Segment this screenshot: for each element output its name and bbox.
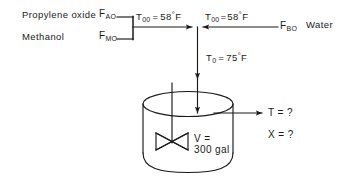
t00-left-subscript: 00 xyxy=(142,16,150,23)
feed-a-flow-symbol: FAO xyxy=(99,8,116,19)
temperature-label-t00-left: T00=58°F xyxy=(136,9,181,22)
reactor-volume-line2: 300 gal xyxy=(194,144,230,155)
feed-a-name-label: Propylene oxide xyxy=(22,9,96,20)
temperature-label-t00-right: T00=58°F xyxy=(205,9,248,22)
feed-m-flow-subscript: MO xyxy=(106,35,118,42)
feed-a-flow-subscript: AO xyxy=(106,13,117,20)
feed-m-flow-base: F xyxy=(99,30,106,41)
feed-m-flow-symbol: FMO xyxy=(99,30,117,41)
t0-mixed-unit: F xyxy=(241,52,247,63)
t00-right-equals: = xyxy=(220,11,226,22)
feed-m-name-label: Methanol xyxy=(22,31,64,42)
t0-mixed-subscript: 0 xyxy=(212,57,216,64)
t0-mixed-equals: = xyxy=(218,52,224,63)
reactor-volume-label: V = 300 gal xyxy=(194,133,230,155)
feed-b-name-label: Water xyxy=(306,19,333,30)
reactor-volume-line1: V = xyxy=(194,133,230,144)
feed-b-flow-base: F xyxy=(280,20,287,31)
feed-b-flow-subscript: BO xyxy=(287,25,298,32)
t00-left-degree: ° xyxy=(172,10,175,19)
t00-right-value: 58 xyxy=(227,11,238,22)
t0-mixed-value: 75 xyxy=(226,52,237,63)
t00-left-equals: = xyxy=(152,11,158,22)
feed-b-flow-symbol: FBO xyxy=(280,20,297,31)
process-flow-diagram: Propylene oxide Methanol FAO FMO FBO Wat… xyxy=(0,0,342,185)
t00-left-value: 58 xyxy=(160,11,171,22)
feed-a-flow-base: F xyxy=(99,8,106,19)
outlet-temperature-label: T = ? xyxy=(268,107,293,118)
t00-left-unit: F xyxy=(175,11,181,22)
reactor-vessel xyxy=(143,92,233,173)
temperature-label-t0-mixed: T0=75°F xyxy=(206,50,247,63)
outlet-conversion-label: X = ? xyxy=(268,129,294,140)
t00-right-subscript: 00 xyxy=(211,16,219,23)
t00-right-unit: F xyxy=(242,11,248,22)
t00-right-degree: ° xyxy=(239,10,242,19)
t0-mixed-degree: ° xyxy=(238,51,241,60)
